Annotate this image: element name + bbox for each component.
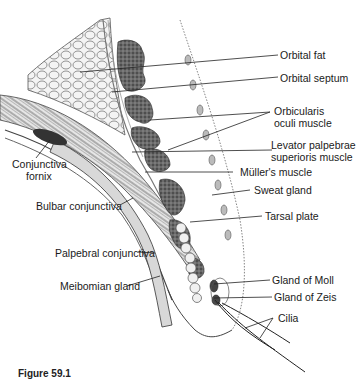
- orbicularis-lobules: [117, 40, 204, 278]
- label-orbicularis-line2: oculi muscle: [274, 117, 332, 129]
- label-orbicularis-line1: Orbicularis: [274, 105, 324, 117]
- label-sweat-gland: Sweat gland: [254, 184, 312, 196]
- label-meibomian-gland: Meibomian gland: [60, 280, 140, 292]
- label-levator-line1: Levator palpebrae: [271, 139, 356, 151]
- label-orbital-septum: Orbital septum: [280, 72, 348, 84]
- label-bulbar-conjunctiva: Bulbar conjunctiva: [36, 200, 122, 212]
- label-orbital-fat: Orbital fat: [280, 49, 326, 61]
- label-muller-muscle: Müller's muscle: [240, 166, 312, 178]
- label-conjunctiva-fornix-line1: Conjunctiva: [12, 158, 67, 170]
- label-levator-line2: superioris muscle: [271, 151, 353, 163]
- label-cilia: Cilia: [278, 312, 298, 324]
- label-tarsal-plate: Tarsal plate: [265, 210, 319, 222]
- label-gland-of-zeis: Gland of Zeis: [274, 291, 336, 303]
- figure-caption: Figure 59.1: [18, 368, 71, 379]
- label-conjunctiva-fornix-line2: fornix: [26, 170, 52, 182]
- cilia-shape: [215, 300, 305, 372]
- label-palpebral-conjunctiva: Palpebral conjunctiva: [55, 247, 155, 259]
- label-gland-of-moll: Gland of Moll: [272, 274, 334, 286]
